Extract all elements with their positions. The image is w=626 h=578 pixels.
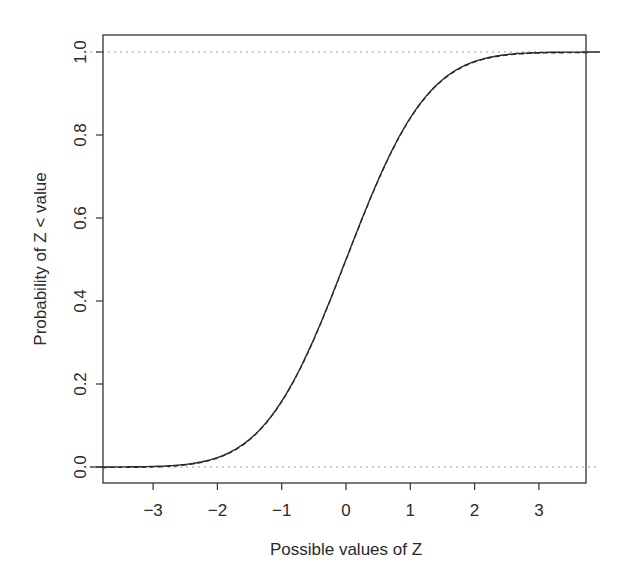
x-axis: −3−2−10123 <box>143 483 543 520</box>
y-tick-label: 1.0 <box>71 40 90 64</box>
x-tick-label: −1 <box>272 501 291 520</box>
y-tick-label: 0.6 <box>71 206 90 230</box>
x-tick-label: −2 <box>208 501 227 520</box>
x-tick-label: 2 <box>470 501 479 520</box>
normal-cdf-line <box>102 52 600 467</box>
x-tick-label: −3 <box>143 501 162 520</box>
y-axis-label: Probability of Z < value <box>31 172 50 345</box>
reference-lines <box>90 52 600 467</box>
cdf-chart: −3−2−10123 0.00.20.40.60.81.0 Possible v… <box>0 0 626 578</box>
y-tick-label: 0.2 <box>71 372 90 396</box>
x-axis-label: Possible values of Z <box>270 540 422 559</box>
x-tick-label: 0 <box>341 501 350 520</box>
y-tick-label: 0.0 <box>71 455 90 479</box>
y-tick-label: 0.8 <box>71 123 90 147</box>
y-axis: 0.00.20.40.60.81.0 <box>71 40 103 479</box>
x-tick-label: 3 <box>534 501 543 520</box>
plot-frame <box>103 35 586 483</box>
x-tick-label: 1 <box>406 501 415 520</box>
y-tick-label: 0.4 <box>71 289 90 313</box>
series-group <box>90 52 600 468</box>
